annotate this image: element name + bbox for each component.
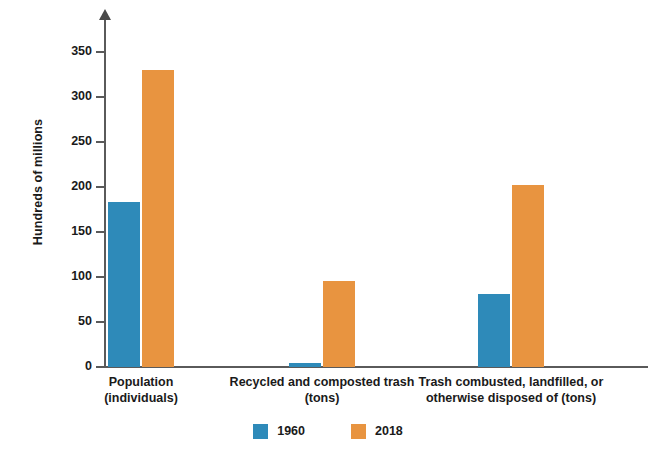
- y-axis-tick-label: 100: [22, 270, 92, 283]
- x-axis-line: [104, 366, 648, 368]
- y-axis-tick: [96, 51, 106, 53]
- bar-2018-group-3: [512, 185, 544, 367]
- y-axis-arrow-icon: [99, 9, 111, 20]
- chart-legend: 19602018: [0, 424, 656, 439]
- y-axis-tick-label: 200: [22, 180, 92, 193]
- bar-2018-group-1: [142, 70, 174, 367]
- y-axis-tick: [96, 321, 106, 323]
- y-axis-tick-label: 0: [22, 360, 92, 373]
- bar-1960-group-1: [108, 202, 140, 367]
- y-axis-tick: [96, 96, 106, 98]
- bar-1960-group-3: [478, 294, 510, 367]
- legend-item-2018[interactable]: 2018: [351, 424, 403, 439]
- x-axis-label-line: Population: [109, 375, 174, 389]
- bar-1960-group-2: [289, 363, 321, 367]
- y-axis-tick: [96, 141, 106, 143]
- y-axis-tick: [96, 186, 106, 188]
- y-axis-tick: [96, 366, 106, 368]
- y-axis-tick-label: 50: [22, 315, 92, 328]
- legend-swatch-icon: [351, 424, 366, 439]
- legend-item-1960[interactable]: 1960: [253, 424, 305, 439]
- plot-area: 050100150200250300350 Population(individ…: [0, 0, 656, 462]
- legend-label: 1960: [277, 425, 305, 438]
- y-axis-tick-label: 250: [22, 135, 92, 148]
- y-axis-tick-label: 350: [22, 45, 92, 58]
- y-axis-tick-label: 300: [22, 90, 92, 103]
- x-axis-label-line: otherwise disposed of (tons): [386, 390, 636, 406]
- bar-chart: Hundreds of millions 0501001502002503003…: [0, 0, 656, 462]
- x-axis-label-line: Trash combusted, landfilled, or: [419, 375, 604, 389]
- legend-label: 2018: [375, 425, 403, 438]
- y-axis-line: [104, 18, 106, 368]
- x-axis-label-group-3: Trash combusted, landfilled, orotherwise…: [386, 374, 636, 406]
- legend-swatch-icon: [253, 424, 268, 439]
- y-axis-tick: [96, 231, 106, 233]
- bar-2018-group-2: [323, 281, 355, 367]
- y-axis-tick: [96, 276, 106, 278]
- y-axis-tick-label: 150: [22, 225, 92, 238]
